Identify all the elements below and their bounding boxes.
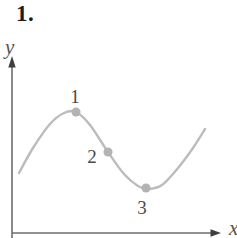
point-dot-3 [142,184,151,193]
x-axis-label: x [228,216,237,238]
textbook-figure: 1. 1 2 3 y x [0,0,237,238]
x-axis-arrowhead-icon [211,229,222,237]
point-label-1: 1 [70,86,80,107]
point-label-3: 3 [137,197,147,218]
point-dot-2 [104,148,113,157]
point-label-2: 2 [87,146,97,167]
figure-canvas: 1 2 3 y x [0,0,237,238]
y-axis-label: y [3,35,15,59]
point-dot-1 [72,108,81,117]
